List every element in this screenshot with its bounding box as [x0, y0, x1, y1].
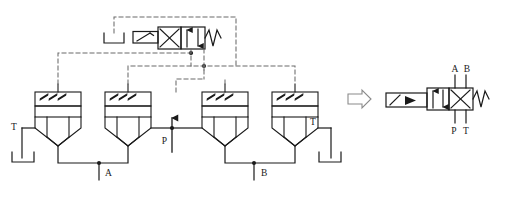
- label-main-valve-port-t: T: [463, 126, 469, 136]
- label-main-valve-port-b: B: [464, 64, 470, 74]
- main-valve-body: [427, 88, 473, 110]
- label-tank-left: T: [11, 122, 17, 132]
- schematic-canvas: T T P A B A B P T W: [0, 0, 506, 197]
- block-arrow-right-icon: [348, 90, 371, 108]
- pilot-control-lines: [58, 17, 295, 92]
- cartridge-valve-3[interactable]: [202, 84, 248, 146]
- tank-symbol-right: [319, 152, 341, 162]
- pilot-valve-spring-icon: [205, 30, 221, 46]
- main-valve-group[interactable]: [386, 75, 489, 123]
- pilot-valve-solenoid-icon: [104, 33, 124, 43]
- main-valve-triangle-icon: [405, 96, 416, 105]
- main-valve-spring-icon: [473, 91, 489, 107]
- pilot-valve-parallel-arrows-icon: [187, 29, 198, 47]
- cartridge-valve-4[interactable]: [272, 84, 318, 146]
- label-main-valve-port-p: P: [451, 126, 456, 136]
- label-tank-right: T: [310, 117, 316, 127]
- label-port-b: B: [261, 168, 267, 178]
- tank-symbol-left: [12, 152, 34, 162]
- main-valve-parallel-arrows-icon: [433, 90, 443, 108]
- hydraulic-schematic: T T P A B A B P T W: [0, 0, 506, 197]
- pilot-valve-lever-icon: [133, 32, 158, 44]
- main-valve-crossed-paths-icon: [451, 90, 470, 108]
- pilot-valve-group[interactable]: [104, 27, 221, 49]
- work-lines: [12, 118, 341, 180]
- label-pressure-p: P: [162, 136, 167, 146]
- junction-dots: [97, 51, 256, 165]
- pilot-valve-crossed-paths-icon: [160, 29, 179, 47]
- label-port-a: A: [105, 168, 112, 178]
- cartridge-valve-2[interactable]: [105, 84, 151, 146]
- label-main-valve-port-a: A: [452, 64, 459, 74]
- cartridge-valve-1[interactable]: [35, 84, 81, 146]
